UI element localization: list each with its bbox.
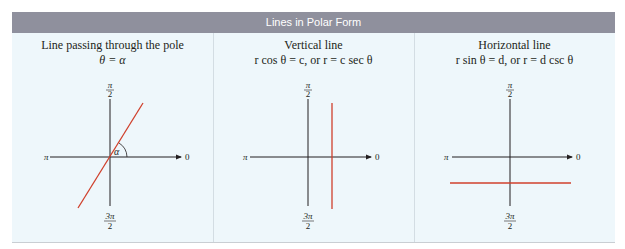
label-pi: π xyxy=(444,152,449,162)
label-3pi-over-2-num: 3π xyxy=(302,211,313,221)
label-3pi-over-2-den: 2 xyxy=(306,221,311,231)
label-3pi-over-2-num: 3π xyxy=(504,211,515,221)
diagram-vertical: π 2 3π 2 π 0 xyxy=(243,80,380,231)
label-pi: π xyxy=(243,152,248,162)
label-3pi-over-2-den: 2 xyxy=(508,221,513,231)
label-pi: π xyxy=(44,152,49,162)
angle-arc xyxy=(119,143,127,157)
diagram-pole: α π 2 3π 2 π 0 xyxy=(44,80,190,231)
label-zero: 0 xyxy=(576,152,581,162)
label-zero: 0 xyxy=(185,152,190,162)
label-pi-over-2-den: 2 xyxy=(508,89,513,99)
angle-label: α xyxy=(114,146,120,157)
label-3pi-over-2-den: 2 xyxy=(108,221,113,231)
polar-diagrams: α π 2 3π 2 π 0 π 2 3π 2 π 0 π 2 3π 2 π 0 xyxy=(0,0,625,249)
label-3pi-over-2-num: 3π xyxy=(104,211,115,221)
diagram-horizontal: π 2 3π 2 π 0 xyxy=(444,80,581,231)
label-pi-over-2-den: 2 xyxy=(306,89,311,99)
label-pi-over-2-den: 2 xyxy=(108,89,113,99)
label-zero: 0 xyxy=(375,152,380,162)
